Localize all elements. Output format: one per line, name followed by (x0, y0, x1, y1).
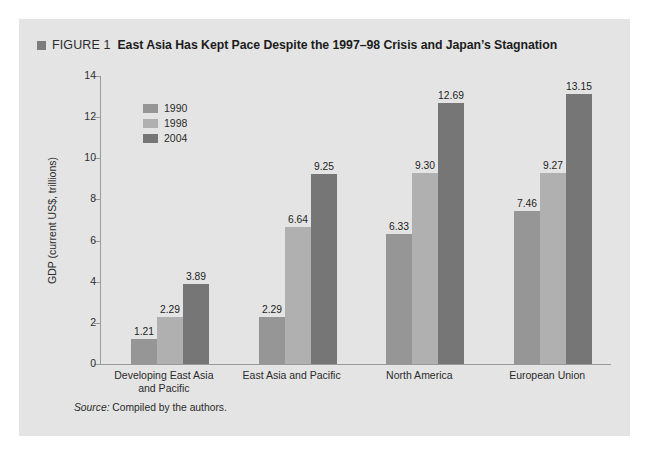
y-tick-label: 14 (84, 69, 96, 81)
y-tick-label: 0 (90, 357, 96, 369)
bar[interactable]: 9.25 (311, 174, 337, 364)
bar[interactable]: 2.29 (259, 317, 285, 364)
bar[interactable]: 6.33 (386, 234, 412, 364)
legend-item-2004[interactable]: 2004 (143, 132, 187, 145)
bar-value-label: 1.21 (134, 326, 154, 337)
y-tick-label: 6 (90, 234, 96, 246)
x-axis-category-label: North America (356, 369, 484, 382)
bar[interactable]: 3.89 (183, 284, 209, 364)
bar-value-label: 6.33 (389, 221, 409, 232)
square-bullet-icon (37, 41, 46, 50)
x-axis-category-label: European Union (483, 369, 611, 382)
bar-value-label: 9.27 (543, 160, 563, 171)
legend-label: 1990 (164, 103, 187, 114)
source-label: Source: (74, 402, 110, 413)
bar[interactable]: 6.64 (285, 227, 311, 364)
bar[interactable]: 13.15 (566, 94, 592, 365)
bar-value-label: 12.69 (438, 90, 464, 101)
y-axis-title: GDP (current US$, trillions) (45, 76, 59, 365)
bar[interactable]: 12.69 (438, 103, 464, 364)
x-axis-category-label: East Asia and Pacific (228, 369, 356, 382)
bar[interactable]: 9.27 (540, 173, 566, 364)
bar-value-label: 7.46 (517, 198, 537, 209)
legend-label: 2004 (164, 133, 187, 144)
bar-value-label: 9.25 (314, 161, 334, 172)
bar-value-label: 9.30 (415, 160, 435, 171)
bar-value-label: 13.15 (566, 81, 592, 92)
source-note: Source: Compiled by the authors. (74, 402, 227, 413)
figure-panel: FIGURE 1 East Asia Has Kept Pace Despite… (19, 19, 630, 436)
x-axis-category-label: Developing East Asia and Pacific (100, 369, 228, 394)
bar[interactable]: 7.46 (514, 211, 540, 364)
legend-item-1990[interactable]: 1990 (143, 102, 187, 115)
bar-value-label: 3.89 (186, 271, 206, 282)
y-tick-label: 12 (84, 110, 96, 122)
bar-group: 7.469.2713.15 (514, 76, 592, 364)
y-tick-label: 2 (90, 316, 96, 328)
y-tick-label: 8 (90, 192, 96, 204)
legend-swatch-icon (143, 119, 158, 128)
source-text: Compiled by the authors. (110, 402, 227, 413)
page-title: East Asia Has Kept Pace Despite the 1997… (117, 38, 557, 52)
bar-group: 2.296.649.25 (259, 76, 337, 364)
bar-value-label: 6.64 (288, 214, 308, 225)
legend-label: 1998 (164, 118, 187, 129)
y-tick-label: 10 (84, 151, 96, 163)
chart-plot-area: 02468101214 1.212.293.892.296.649.256.33… (100, 76, 611, 365)
bar[interactable]: 9.30 (412, 173, 438, 364)
bar-group: 6.339.3012.69 (386, 76, 464, 364)
bar-value-label: 2.29 (262, 304, 282, 315)
legend-swatch-icon (143, 104, 158, 113)
legend-swatch-icon (143, 134, 158, 143)
figure-title-row: FIGURE 1 East Asia Has Kept Pace Despite… (37, 38, 557, 52)
chart-legend: 199019982004 (143, 102, 187, 147)
figure-number: FIGURE 1 (52, 38, 110, 52)
bar-value-label: 2.29 (160, 304, 180, 315)
bar[interactable]: 2.29 (157, 317, 183, 364)
legend-item-1998[interactable]: 1998 (143, 117, 187, 130)
y-tick-label: 4 (90, 275, 96, 287)
bar[interactable]: 1.21 (131, 339, 157, 364)
